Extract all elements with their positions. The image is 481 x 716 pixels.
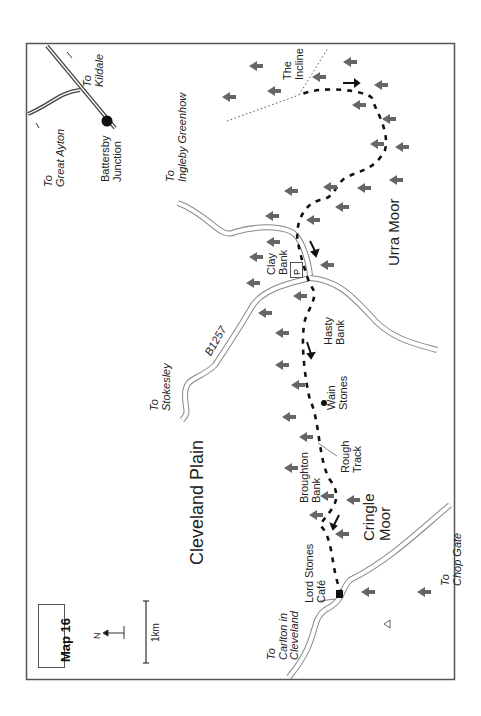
label-rough-track: RoughTrack [340, 441, 363, 473]
direction-great-ayton: ToGreat Ayton [43, 129, 66, 187]
lord-stones-cafe-marker [336, 590, 343, 598]
north-label: N [93, 633, 102, 640]
label-lord-stones-cafe: Lord StonesCafé [304, 544, 327, 603]
route-map [0, 0, 481, 716]
direction-kildale: ToKildale [82, 54, 105, 87]
label-broughton-bank: BroughtonBank [299, 452, 322, 503]
direction-chop-gate: ToChop Gate [440, 533, 463, 586]
label-hasty-bank: HastyBank [323, 317, 346, 345]
label-clay-bank: ClayBank [266, 250, 289, 275]
region-cleveland-plain: Cleveland Plain [188, 440, 207, 565]
label-the-incline: TheIncline [282, 48, 305, 80]
direction-carlton: ToCarlton inCleveland [266, 611, 301, 660]
map-frame [27, 44, 455, 680]
parking-icon: P [290, 262, 303, 278]
map-title-box: Map 16 [38, 604, 65, 668]
battersby-junction-marker [102, 116, 113, 127]
direction-stokesley: ToStokesley [149, 363, 172, 411]
region-cringle-moor: CringleMoor [361, 493, 393, 541]
label-battersby-junction: BattersbyJunction [100, 136, 123, 182]
region-urra-moor: Urra Moor [386, 198, 402, 266]
scale-label: 1km [151, 623, 162, 642]
label-wain-stones: WainStones [326, 376, 349, 410]
direction-ingleby-greenhow: ToIngleby Greenhow [165, 93, 188, 182]
